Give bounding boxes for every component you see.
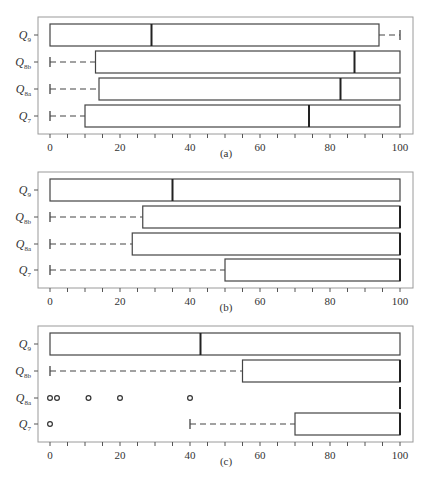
iqr-box bbox=[99, 78, 400, 100]
box-q8a: Q8a bbox=[16, 233, 400, 255]
box-q7: Q7 bbox=[19, 413, 400, 435]
boxplot-panel-b: 020406080100(b)Q9Q8bQ8aQ7 bbox=[15, 172, 413, 314]
panel-label: (b) bbox=[220, 301, 233, 314]
panel-label: (c) bbox=[220, 455, 233, 468]
x-tick-label: 60 bbox=[255, 141, 267, 153]
x-tick-label: 100 bbox=[392, 295, 409, 307]
y-tick-label: Q9 bbox=[19, 183, 32, 199]
x-tick-label: 60 bbox=[255, 449, 267, 461]
x-tick-label: 20 bbox=[115, 449, 127, 461]
iqr-box bbox=[143, 206, 400, 228]
outlier-point bbox=[86, 396, 91, 401]
box-q8a: Q8a bbox=[16, 387, 400, 409]
boxplot-panel-c: 020406080100(c)Q9Q8bQ8aQ7 bbox=[15, 326, 413, 468]
y-tick-label: Q7 bbox=[19, 109, 32, 125]
y-tick-label: Q8b bbox=[15, 210, 31, 226]
y-tick-label: Q8b bbox=[15, 364, 31, 380]
x-tick-label: 80 bbox=[325, 449, 337, 461]
y-tick-label: Q8a bbox=[16, 237, 32, 253]
boxplot-svg: 020406080100(a)Q9Q8bQ8aQ7020406080100(b)… bbox=[0, 0, 432, 483]
y-tick-label: Q7 bbox=[19, 417, 32, 433]
iqr-box bbox=[132, 233, 400, 255]
box-q9: Q9 bbox=[19, 333, 400, 355]
outlier-point bbox=[118, 396, 123, 401]
iqr-box bbox=[295, 413, 400, 435]
x-tick-label: 20 bbox=[115, 141, 127, 153]
panel-label: (a) bbox=[220, 147, 233, 160]
outlier-point bbox=[55, 396, 60, 401]
y-tick-label: Q9 bbox=[19, 28, 32, 44]
x-tick-label: 40 bbox=[185, 449, 197, 461]
x-tick-label: 0 bbox=[47, 449, 53, 461]
y-tick-label: Q9 bbox=[19, 337, 32, 353]
box-q9: Q9 bbox=[19, 24, 400, 46]
box-q8b: Q8b bbox=[15, 206, 400, 228]
x-tick-label: 0 bbox=[47, 141, 53, 153]
outlier-point bbox=[48, 422, 53, 427]
box-q7: Q7 bbox=[19, 105, 400, 127]
x-tick-label: 80 bbox=[325, 295, 337, 307]
boxplot-figure: 020406080100(a)Q9Q8bQ8aQ7020406080100(b)… bbox=[0, 0, 432, 483]
x-tick-label: 40 bbox=[185, 295, 197, 307]
iqr-box bbox=[85, 105, 400, 127]
y-tick-label: Q8a bbox=[16, 391, 32, 407]
outlier-point bbox=[188, 396, 193, 401]
x-tick-label: 80 bbox=[325, 141, 337, 153]
y-tick-label: Q7 bbox=[19, 263, 32, 279]
boxplot-panel-a: 020406080100(a)Q9Q8bQ8aQ7 bbox=[15, 17, 413, 160]
box-q9: Q9 bbox=[19, 179, 400, 201]
box-q8b: Q8b bbox=[15, 360, 400, 382]
y-tick-label: Q8b bbox=[15, 55, 31, 71]
y-tick-label: Q8a bbox=[16, 82, 32, 98]
box-q8b: Q8b bbox=[15, 51, 400, 73]
iqr-box bbox=[243, 360, 401, 382]
x-tick-label: 40 bbox=[185, 141, 197, 153]
outlier-point bbox=[48, 396, 53, 401]
x-tick-label: 100 bbox=[392, 141, 409, 153]
box-q8a: Q8a bbox=[16, 78, 400, 100]
x-tick-label: 0 bbox=[47, 295, 53, 307]
x-tick-label: 60 bbox=[255, 295, 267, 307]
x-tick-label: 20 bbox=[115, 295, 127, 307]
box-q7: Q7 bbox=[19, 259, 400, 281]
iqr-box bbox=[50, 333, 400, 355]
x-tick-label: 100 bbox=[392, 449, 409, 461]
iqr-box bbox=[225, 259, 400, 281]
iqr-box bbox=[50, 179, 400, 201]
iqr-box bbox=[50, 24, 379, 46]
